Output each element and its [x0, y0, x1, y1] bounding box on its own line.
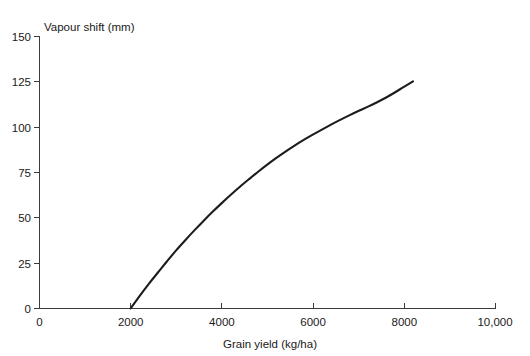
y-tick-label: 75 — [18, 167, 31, 179]
x-tick-label: 8000 — [392, 316, 418, 328]
x-axis-tick-labels: 0 2000 4000 6000 8000 10,000 — [36, 316, 512, 328]
y-tick-label: 0 — [25, 303, 31, 315]
y-tick-label: 50 — [18, 212, 31, 224]
x-tick-label: 4000 — [209, 316, 235, 328]
x-tick-label: 2000 — [118, 316, 144, 328]
x-axis-title: Grain yield (kg/ha) — [223, 338, 317, 350]
data-series-line — [131, 81, 413, 308]
x-tick-label: 6000 — [300, 316, 326, 328]
x-axis-ticks — [40, 303, 496, 309]
y-axis-tick-labels: 150 125 100 75 50 25 0 — [12, 31, 31, 315]
y-tick-label: 150 — [12, 31, 31, 43]
y-tick-label: 100 — [12, 122, 31, 134]
x-tick-label: 0 — [36, 316, 42, 328]
y-tick-label: 25 — [18, 258, 31, 270]
vapour-shift-vs-grain-yield-chart: Vapour shift (mm) 150 125 100 75 50 25 0 — [0, 0, 530, 356]
y-axis-ticks — [34, 37, 40, 309]
y-tick-label: 125 — [12, 76, 31, 88]
x-tick-label: 10,000 — [477, 316, 512, 328]
y-axis-title: Vapour shift (mm) — [44, 21, 135, 33]
chart-container: Vapour shift (mm) 150 125 100 75 50 25 0 — [0, 0, 530, 356]
